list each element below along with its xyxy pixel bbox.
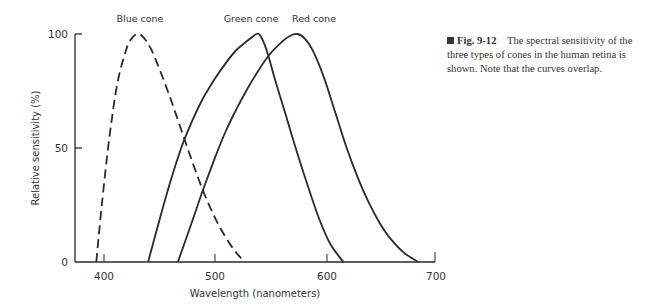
x-tick-label-700: 700: [426, 270, 446, 282]
green-cone-curve: [148, 34, 343, 262]
green-cone-label: Green cone: [224, 13, 279, 24]
blue-cone-label: Blue cone: [117, 13, 164, 24]
red-cone-label: Red cone: [292, 13, 336, 24]
x-axis-title: Wavelength (nanometers): [190, 288, 321, 299]
figure-number: Fig. 9-12: [457, 35, 496, 46]
red-cone-curve: [178, 34, 419, 262]
curves: [96, 34, 418, 262]
figure-caption: Fig. 9-12 The spectral sensitivity of th…: [447, 34, 645, 76]
y-axis-title: Relative sensitivity (%): [30, 90, 41, 205]
x-tick-label-400: 400: [94, 270, 114, 282]
y-tick-label-100: 100: [48, 28, 68, 40]
square-bullet-icon: [447, 37, 454, 44]
y-tick-label-50: 50: [55, 142, 68, 154]
x-tick-label-500: 500: [205, 270, 225, 282]
y-tick-label-0: 0: [61, 256, 68, 268]
x-tick-label-600: 600: [317, 270, 337, 282]
